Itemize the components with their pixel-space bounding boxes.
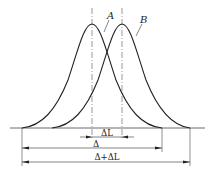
distribution-shift-diagram: A B ΔL Δ Δ+ΔL bbox=[0, 0, 213, 180]
dim-delta-l-label: ΔL bbox=[101, 128, 113, 138]
arrow-icon bbox=[183, 161, 190, 164]
arrow-icon bbox=[22, 147, 29, 150]
dim-delta-label: Δ bbox=[93, 139, 99, 149]
arrow-icon bbox=[122, 136, 128, 139]
leader-b bbox=[136, 24, 142, 36]
leader-a bbox=[104, 20, 109, 32]
dim-delta-plus-label: Δ+ΔL bbox=[94, 152, 119, 162]
curve-b-label: B bbox=[139, 14, 147, 25]
arrow-icon bbox=[86, 136, 92, 139]
arrow-icon bbox=[155, 147, 162, 150]
curve-b bbox=[52, 24, 190, 128]
arrow-icon bbox=[22, 161, 29, 164]
curve-a-label: A bbox=[106, 10, 114, 21]
